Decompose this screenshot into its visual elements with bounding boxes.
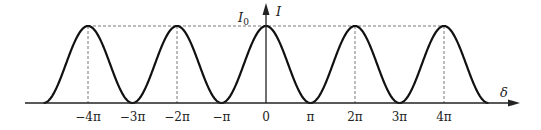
intensity-diagram: I I0 δ −4π−3π−2π−π0π2π3π4π: [0, 0, 541, 130]
x-tick-label: 2π: [347, 110, 363, 124]
y-axis-arrow-icon: [263, 3, 270, 15]
x-axis-label: δ: [500, 85, 508, 100]
x-axis-arrow-icon: [508, 100, 520, 107]
x-tick-label: 0: [262, 110, 270, 124]
x-tick-label: −4π: [75, 110, 101, 124]
x-tick-label: π: [307, 110, 315, 124]
y-axis-label: I: [275, 4, 282, 19]
x-tick-labels: −4π−3π−2π−π0π2π3π4π: [75, 110, 452, 124]
peak-label-subscript: 0: [243, 17, 249, 27]
x-tick-label: −3π: [120, 110, 146, 124]
x-tick-label: 3π: [392, 110, 408, 124]
x-tick-label: −2π: [164, 110, 190, 124]
peak-label: I0: [237, 10, 249, 27]
x-tick-label: 4π: [436, 110, 452, 124]
x-tick-label: −π: [213, 110, 231, 124]
